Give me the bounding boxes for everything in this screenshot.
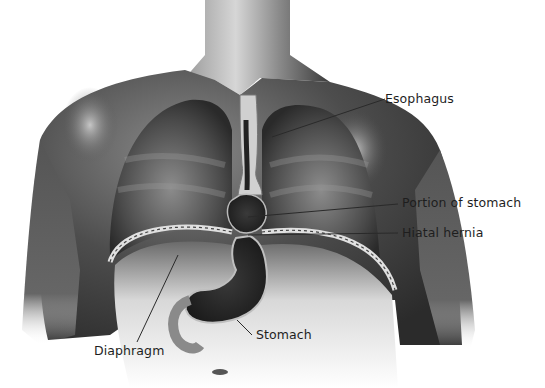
hiatal-hernia-illustration: Esophagus Portion of stomach Hiatal hern… [0, 0, 545, 388]
left-shoulder-highlight [62, 87, 118, 163]
herniated-stomach [227, 194, 266, 233]
label-stomach: Stomach [256, 329, 312, 342]
label-esophagus: Esophagus [385, 93, 454, 106]
label-diaphragm: Diaphragm [94, 345, 164, 358]
label-portion-of-stomach: Portion of stomach [402, 197, 521, 210]
label-hiatal-hernia: Hiatal hernia [402, 227, 483, 240]
navel [212, 369, 228, 375]
